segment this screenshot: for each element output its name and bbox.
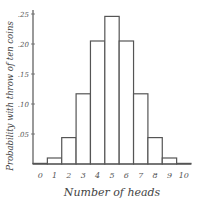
bar-5	[105, 16, 119, 164]
bar-9	[162, 158, 176, 164]
bar-6	[119, 41, 133, 164]
bar-3	[76, 94, 90, 164]
x-tick-label: 2	[65, 171, 71, 180]
bar-1	[47, 158, 61, 164]
bar-8	[148, 138, 162, 164]
x-tick-label: 7	[138, 171, 144, 180]
bar-4	[90, 41, 104, 164]
x-ticks-group: 012345678910	[38, 171, 189, 180]
x-tick-label: 4	[94, 171, 100, 180]
histogram-chart: .05.10.15.20.25 012345678910 Number of h…	[0, 0, 202, 202]
bar-2	[62, 138, 76, 164]
y-tick-label: .15	[18, 71, 30, 79]
x-tick-label: 10	[179, 171, 189, 180]
x-tick-label: 5	[109, 171, 114, 180]
y-tick-label: .10	[18, 101, 30, 109]
x-tick-label: 3	[81, 171, 86, 180]
x-tick-label: 8	[153, 171, 158, 180]
x-tick-label: 9	[167, 171, 172, 180]
y-tick-label: .25	[18, 11, 30, 19]
x-tick-label: 1	[52, 171, 57, 180]
bars-group	[33, 16, 191, 164]
y-tick-label: .20	[18, 41, 30, 49]
y-tick-label: .05	[18, 131, 30, 139]
x-tick-label: 6	[124, 171, 129, 180]
x-tick-label: 0	[38, 171, 43, 180]
y-axis-label: Probability with throw of ten coins	[5, 21, 15, 172]
bar-7	[134, 94, 148, 164]
x-axis-label: Number of heads	[63, 186, 161, 199]
